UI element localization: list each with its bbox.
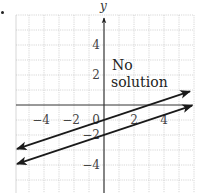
y-axis-label: y bbox=[99, 0, 107, 13]
y-tick-label: 2 bbox=[92, 68, 100, 82]
annotation-no: No bbox=[112, 57, 133, 73]
coordinate-graph: y −4−202442−2−4 No solution bbox=[0, 0, 198, 193]
grid-lines bbox=[16, 15, 194, 193]
x-tick-label: −2 bbox=[62, 113, 80, 127]
y-tick-label: 4 bbox=[92, 38, 100, 52]
y-tick-label: −4 bbox=[82, 158, 100, 172]
x-tick-label: −4 bbox=[32, 113, 50, 127]
annotation-solution: solution bbox=[111, 74, 168, 90]
x-tick-label: 0 bbox=[92, 113, 100, 127]
